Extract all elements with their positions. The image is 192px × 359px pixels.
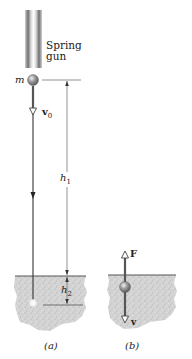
spring-gun-tube [25,10,42,68]
ground-block-a [14,276,87,331]
initial-velocity-subscript: 0 [48,112,52,120]
h2-label: h2 [61,285,72,298]
h1-subscript: 1 [66,178,70,186]
trajectory-arrow-icon [31,192,36,199]
h1-label: h1 [60,172,71,187]
h2-subscript: 2 [67,290,71,298]
initial-velocity-label: v0 [42,107,52,120]
ball-mass-m [28,75,39,86]
panel-b [107,251,177,329]
velocity-label: v [131,318,136,327]
mass-label: m [15,75,24,85]
force-label: F [130,249,137,259]
ground-block-b [107,275,177,329]
panel-b-caption: (b) [125,341,139,351]
panel-a-caption: (a) [44,341,58,351]
ball-in-ground [120,282,131,293]
diagram-canvas: Spring gun m v0 h1 h2 F v (a) (b) [0,0,192,359]
spring-gun-label-line2: gun [46,51,82,62]
initial-velocity-arrow [30,86,37,115]
diagram-svg [0,0,192,359]
embedded-ball [29,299,38,308]
spring-gun-label: Spring gun [46,40,82,62]
